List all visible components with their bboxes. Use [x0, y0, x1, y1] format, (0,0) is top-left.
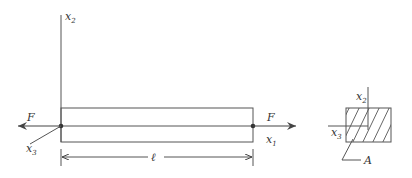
right-force-label: F — [266, 111, 275, 124]
bar-diagram: x2 F x3 F x1 ℓ x2 x3 A — [0, 0, 412, 178]
x3-axis-line — [30, 126, 61, 144]
cross-section: x2 x3 A — [328, 87, 412, 167]
section-x2-label: x2 — [356, 90, 367, 105]
section-x3-label: x3 — [331, 126, 342, 141]
length-label: ℓ — [151, 151, 156, 164]
x2-axis-label: x2 — [65, 10, 76, 25]
x3-axis-label: x3 — [26, 142, 37, 157]
left-force-label: F — [26, 111, 35, 124]
x1-axis-label: x1 — [266, 133, 277, 148]
bar-body — [61, 108, 253, 142]
area-label: A — [363, 154, 372, 167]
